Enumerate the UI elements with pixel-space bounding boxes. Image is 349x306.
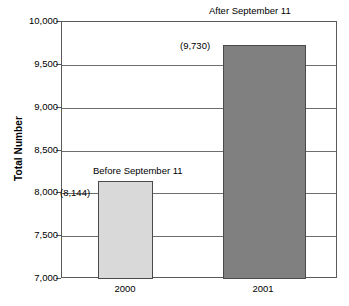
y-tick-label-7000: 7,000	[0, 273, 58, 283]
bar-2001[interactable]	[223, 45, 306, 279]
value-label-2001: (9,730)	[180, 40, 210, 51]
y-tick-label-7500: 7,500	[0, 230, 58, 240]
x-tick-label-2000: 2000	[94, 283, 156, 294]
value-label-2000: (8,144)	[60, 187, 90, 198]
y-tick-label-8000: 8,000	[0, 187, 58, 197]
series-label-after: After September 11	[209, 5, 291, 16]
series-label-before: Before September 11	[93, 165, 183, 176]
plot-area	[61, 21, 337, 278]
x-tick-label-2001: 2001	[232, 283, 294, 294]
y-tick-label-8500: 8,500	[0, 145, 58, 155]
bar-chart: Total Number 10,000 9,500 9,000 8,500 8,…	[0, 0, 349, 306]
bar-2000[interactable]	[98, 181, 153, 279]
y-tick-label-10000: 10,000	[0, 16, 58, 26]
y-tick-label-9500: 9,500	[0, 59, 58, 69]
y-tick-label-9000: 9,000	[0, 102, 58, 112]
